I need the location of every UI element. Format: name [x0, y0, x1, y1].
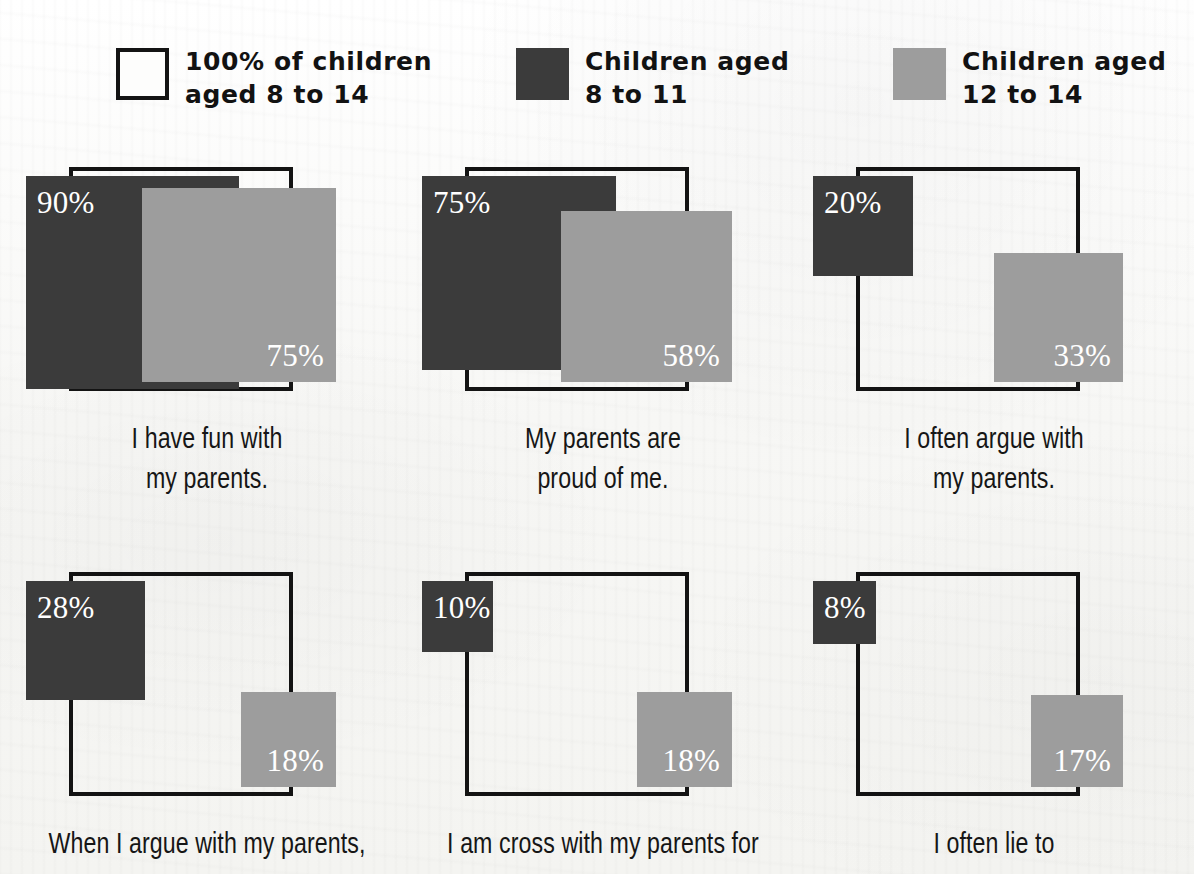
value-label-light: 33% — [1054, 340, 1111, 371]
outline-square-swatch-icon — [116, 48, 169, 100]
light-square-aged-12-to-14: 17% — [1031, 695, 1123, 787]
light-square-aged-12-to-14: 18% — [241, 692, 336, 787]
value-label-dark: 8% — [824, 592, 866, 623]
value-label-light: 75% — [267, 340, 324, 371]
plot-area: 90% 75% — [8, 150, 406, 418]
light-square-aged-12-to-14: 18% — [637, 692, 732, 787]
chart-caption: I often lie to — [835, 823, 1153, 863]
infographic-root: 100% of children aged 8 to 14 Children a… — [0, 0, 1194, 874]
dark-square-aged-8-to-11: 8% — [813, 581, 876, 644]
chart-cell-have-fun-with-parents: 90% 75% I have fun with my parents. — [8, 150, 406, 512]
plot-area: 28% 18% — [8, 555, 406, 823]
chart-cell-parents-proud-of-me: 75% 58% My parents are proud of me. — [404, 150, 802, 512]
value-label-light: 18% — [267, 745, 324, 776]
light-gray-square-swatch-icon — [893, 48, 946, 100]
value-label-light: 58% — [663, 340, 720, 371]
chart-grid: 90% 75% I have fun with my parents. 75% … — [0, 150, 1194, 874]
light-square-aged-12-to-14: 75% — [142, 188, 336, 382]
value-label-dark: 75% — [433, 187, 490, 218]
legend-item-aged-8-to-11: Children aged 8 to 11 — [516, 44, 789, 111]
dark-square-aged-8-to-11: 10% — [422, 581, 493, 652]
chart-legend: 100% of children aged 8 to 14 Children a… — [0, 44, 1194, 134]
plot-area: 10% 18% — [404, 555, 802, 823]
legend-label-aged-8-to-11: Children aged 8 to 11 — [585, 44, 789, 111]
chart-cell-when-i-argue-with-parents: 28% 18% When I argue with my parents, — [8, 555, 406, 874]
chart-cell-often-lie-to: 8% 17% I often lie to — [795, 555, 1193, 874]
plot-area: 20% 33% — [795, 150, 1193, 418]
plot-area: 8% 17% — [795, 555, 1193, 823]
chart-cell-cross-with-parents: 10% 18% I am cross with my parents for — [404, 555, 802, 874]
chart-caption: I often argue with my parents. — [835, 418, 1153, 498]
value-label-dark: 28% — [37, 592, 94, 623]
chart-caption: When I argue with my parents, — [48, 823, 366, 863]
dark-square-aged-8-to-11: 20% — [813, 176, 913, 276]
legend-label-all-children: 100% of children aged 8 to 14 — [185, 44, 432, 111]
value-label-light: 18% — [663, 745, 720, 776]
chart-caption: My parents are proud of me. — [444, 418, 762, 498]
dark-square-swatch-icon — [516, 48, 569, 100]
value-label-light: 17% — [1054, 745, 1111, 776]
legend-item-all-children: 100% of children aged 8 to 14 — [116, 44, 432, 111]
chart-caption: I have fun with my parents. — [48, 418, 366, 498]
value-label-dark: 90% — [37, 187, 94, 218]
plot-area: 75% 58% — [404, 150, 802, 418]
chart-cell-often-argue-with-parents: 20% 33% I often argue with my parents. — [795, 150, 1193, 512]
light-square-aged-12-to-14: 58% — [561, 211, 732, 382]
legend-label-aged-12-to-14: Children aged 12 to 14 — [962, 44, 1166, 111]
light-square-aged-12-to-14: 33% — [994, 253, 1123, 382]
chart-caption: I am cross with my parents for — [444, 823, 762, 863]
value-label-dark: 10% — [433, 592, 490, 623]
value-label-dark: 20% — [824, 187, 881, 218]
legend-item-aged-12-to-14: Children aged 12 to 14 — [893, 44, 1166, 111]
dark-square-aged-8-to-11: 28% — [26, 581, 145, 700]
